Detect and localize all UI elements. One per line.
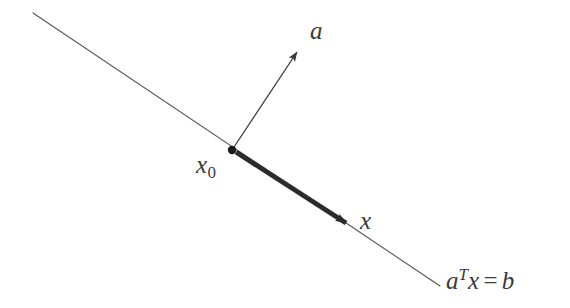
base-point-marker bbox=[228, 146, 236, 154]
difference-vector-arrow bbox=[236, 152, 346, 223]
equation-variable-symbol: x bbox=[468, 267, 479, 294]
base-point-label-subscript: 0 bbox=[208, 163, 217, 182]
base-point-label-symbol: x bbox=[196, 151, 207, 178]
normal-vector-arrow bbox=[232, 52, 297, 150]
diagram-svg bbox=[0, 0, 570, 308]
equation-rhs-symbol: b bbox=[502, 267, 515, 294]
base-point-label: x0 bbox=[196, 152, 216, 181]
equation-lhs-symbol: a bbox=[446, 267, 459, 294]
hyperplane-line bbox=[33, 13, 440, 286]
normal-vector-label-text: a bbox=[310, 17, 323, 44]
equation-transpose-symbol: T bbox=[459, 265, 468, 284]
normal-vector-label: a bbox=[310, 18, 323, 43]
hyperplane-equation-label: aTx=b bbox=[446, 266, 514, 293]
equation-operator-symbol: = bbox=[484, 267, 498, 294]
point-vector-label-text: x bbox=[360, 207, 371, 234]
figure-canvas: a x0 x aTx=b bbox=[0, 0, 570, 308]
point-vector-label: x bbox=[360, 208, 371, 233]
